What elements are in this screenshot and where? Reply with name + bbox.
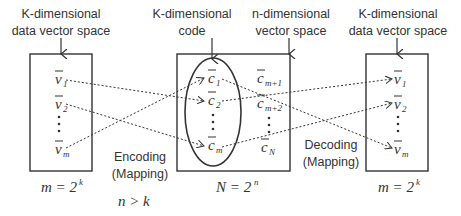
svg-text:v: v [55,141,62,157]
code-c1: c 1 [208,70,221,88]
right-vm: v m [394,141,409,159]
svg-text:v: v [394,71,401,87]
right-ellipsis-dots [397,116,400,133]
code-cm: c m [208,137,223,155]
svg-text:n: n [254,177,259,187]
svg-text:m: m [402,149,409,159]
svg-text:c: c [208,137,215,153]
svg-text:c: c [208,92,215,108]
svg-text:v: v [394,96,401,112]
svg-text:c: c [208,70,215,86]
svg-text:m = 2: m = 2 [41,179,77,195]
svg-text:v: v [394,141,401,157]
svg-text:c: c [261,139,268,155]
vector-ellipsis-dots [268,117,271,134]
left-title-line2: data vector space [12,24,111,38]
svg-text:v: v [55,71,62,87]
vector-c-m-plus-2: c m+2 [257,95,283,113]
svg-text:v: v [55,96,62,112]
left-v1: v 1 [55,71,68,89]
svg-text:2: 2 [402,104,407,114]
svg-text:2: 2 [63,104,68,114]
encoding-label-line2: (Mapping) [112,167,168,181]
left-title-line1: K-dimensional [21,7,100,21]
code-c2: c 2 [208,92,221,110]
vector-c-m-plus-1: c m+1 [257,70,282,88]
middle-size-formula: N = 2 n [215,177,259,195]
right-data-space: K-dimensional data vector space v 1 v 2 … [349,7,448,195]
right-v2: v 2 [394,96,407,114]
left-vm: v m [55,141,70,159]
left-v2: v 2 [55,96,68,114]
svg-text:m = 2: m = 2 [378,179,414,195]
code-title-line1: K-dimensional [152,7,231,21]
arrow-v2-to-cm-icon [66,104,204,146]
right-title-line1: K-dimensional [358,7,437,21]
arrow-v1-to-c2-icon [66,80,204,101]
code-ellipsis-dots [212,114,215,131]
constraint-n-greater-k: n > k [118,193,150,209]
left-ellipsis-dots [58,116,61,133]
space-title-line1: n-dimensional [252,7,330,21]
svg-text:N = 2: N = 2 [215,179,252,195]
right-v1: v 1 [394,71,407,89]
encoding-decoding-diagram: K-dimensional data vector space v 1 v 2 … [0,0,461,216]
svg-text:m: m [63,149,70,159]
svg-text:2: 2 [216,100,221,110]
encoding-arrows [66,78,204,148]
decoding-label-line2: (Mapping) [303,155,359,169]
left-data-space: K-dimensional data vector space v 1 v 2 … [12,7,111,195]
svg-text:c: c [257,95,264,111]
code-title-line2: code [178,24,205,38]
right-title-line2: data vector space [349,24,448,38]
svg-text:N: N [268,147,276,157]
svg-text:c: c [257,70,264,86]
space-title-line2: vector space [256,24,327,38]
svg-text:1: 1 [216,78,221,88]
svg-text:k: k [79,177,84,187]
svg-text:1: 1 [402,79,407,89]
svg-text:m+2: m+2 [265,103,283,113]
arrow-vm-to-c1-icon [66,78,204,148]
left-size-formula: m = 2 k [41,177,84,195]
decoding-label-line1: Decoding [305,138,358,152]
svg-text:k: k [416,177,421,187]
encoding-label-line1: Encoding [114,150,166,164]
vector-c-N: c N [261,139,276,157]
svg-text:m+1: m+1 [265,78,282,88]
right-size-formula: m = 2 k [378,177,421,195]
